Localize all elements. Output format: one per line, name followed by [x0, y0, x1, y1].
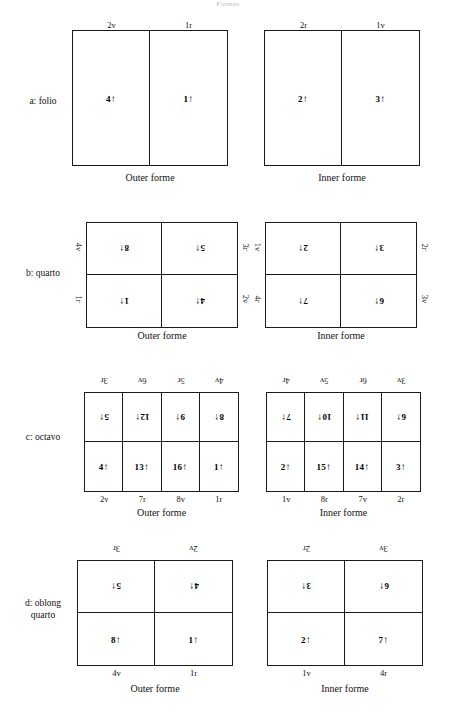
cell-oblong-quarto-outer-3: 1↑	[155, 613, 232, 665]
page-number-6: 6↑	[374, 296, 384, 307]
top-label-oblong-quarto-inner-1: 3v	[345, 544, 422, 554]
top-label-octavo-inner-0: 4r	[267, 376, 305, 386]
row-label-line1: c: octavo	[8, 432, 78, 444]
top-label-oblong-quarto-inner-0: 2r	[268, 544, 345, 554]
page-number-8: 8↑	[111, 634, 121, 645]
page-number-2: 2↑	[298, 243, 308, 254]
row-label-line1: d: oblong	[8, 598, 78, 610]
cell-quarto-outer-2: 1↑	[87, 275, 162, 327]
orientation-arrow-icon: ↑	[301, 581, 306, 592]
bottom-label-octavo-outer-2: 8v	[162, 494, 200, 504]
bottom-label-octavo-outer-0: 2v	[85, 494, 123, 504]
page-number-4: 4↑	[195, 296, 205, 307]
orientation-arrow-icon: ↑	[379, 581, 384, 592]
orientation-arrow-icon: ↑	[219, 461, 224, 472]
orientation-arrow-icon: ↑	[195, 296, 200, 307]
left-label-quarto-outer-1: 1r	[74, 288, 84, 310]
orientation-arrow-icon: ↑	[298, 243, 303, 254]
orientation-arrow-icon: ↑	[111, 581, 116, 592]
cell-folio-inner-0: 2↑	[265, 31, 342, 165]
top-label-folio-outer-1: 1r	[150, 20, 227, 30]
top-label-octavo-outer-2: 5r	[162, 376, 200, 386]
page-number-12: 12↑	[135, 412, 150, 423]
orientation-arrow-icon: ↑	[193, 634, 198, 645]
orientation-arrow-icon: ↑	[383, 634, 388, 645]
orientation-arrow-icon: ↑	[396, 412, 401, 423]
caption-inner-quarto: Inner forme	[265, 330, 417, 341]
cell-quarto-inner-1: 3↑	[341, 223, 416, 275]
page-number-5: 5↑	[111, 581, 121, 592]
cell-octavo-outer-7: 1↑	[200, 442, 238, 491]
forme-outer-oblong-quarto: 5↑4↑8↑1↑	[77, 560, 233, 666]
top-label-octavo-inner-2: 6r	[344, 376, 382, 386]
page-number-5: 5↑	[195, 243, 205, 254]
page-number-4: 4↑	[99, 461, 109, 472]
orientation-arrow-icon: ↑	[303, 93, 308, 104]
orientation-arrow-icon: ↑	[326, 461, 331, 472]
right-label-quarto-inner-0: 2r	[420, 236, 430, 258]
bottom-label-octavo-inner-0: 1v	[267, 494, 305, 504]
orientation-arrow-icon: ↑	[99, 412, 104, 423]
orientation-arrow-icon: ↑	[285, 461, 290, 472]
cell-quarto-outer-1: 5↑	[162, 223, 237, 275]
page-number-1: 1↑	[119, 296, 129, 307]
bottom-label-oblong-quarto-inner-1: 4r	[345, 668, 422, 678]
orientation-arrow-icon: ↑	[103, 461, 108, 472]
orientation-arrow-icon: ↑	[298, 296, 303, 307]
page-number-3: 3↑	[376, 93, 386, 104]
page-number-2: 2↑	[281, 461, 291, 472]
caption-inner-folio: Inner forme	[264, 172, 420, 183]
bottom-label-octavo-inner-3: 2r	[382, 494, 420, 504]
top-label-folio-inner-0: 2r	[265, 20, 342, 30]
cell-octavo-inner-3: 6↑	[382, 393, 420, 442]
cell-oblong-quarto-inner-1: 6↑	[345, 561, 422, 613]
page-number-16: 16↑	[173, 461, 188, 472]
page-number-13: 13↑	[135, 461, 150, 472]
top-label-folio-outer-0: 2v	[73, 20, 150, 30]
cell-quarto-inner-3: 6↑	[341, 275, 416, 327]
right-label-quarto-outer-0: 3r	[241, 236, 251, 258]
page-number-14: 14↑	[355, 461, 370, 472]
caption-outer-folio: Outer forme	[72, 172, 228, 183]
orientation-arrow-icon: ↑	[195, 243, 200, 254]
top-label-folio-inner-1: 1v	[342, 20, 419, 30]
cell-oblong-quarto-outer-1: 4↑	[155, 561, 232, 613]
forme-inner-folio: 2↑3↑	[264, 30, 420, 166]
bottom-label-octavo-inner-1: 8r	[305, 494, 343, 504]
row-label-folio: a: folio	[8, 96, 78, 108]
cell-octavo-inner-7: 3↑	[382, 442, 420, 491]
forme-outer-folio: 4↑1↑	[72, 30, 228, 166]
row-label-quarto: b: quarto	[8, 268, 78, 280]
top-label-octavo-inner-1: 5v	[305, 376, 343, 386]
cell-octavo-outer-4: 4↑	[85, 442, 123, 491]
bottom-label-oblong-quarto-outer-0: 4v	[78, 668, 155, 678]
cell-oblong-quarto-outer-2: 8↑	[78, 613, 155, 665]
orientation-arrow-icon: ↑	[119, 296, 124, 307]
orientation-arrow-icon: ↑	[188, 93, 193, 104]
orientation-arrow-icon: ↑	[317, 412, 322, 423]
caption-inner-octavo: Inner forme	[266, 507, 421, 518]
page-number-2: 2↑	[298, 93, 308, 104]
bottom-label-oblong-quarto-inner-0: 1v	[268, 668, 345, 678]
forme-inner-octavo: 7↑10↑11↑6↑2↑15↑14↑3↑	[266, 392, 421, 492]
left-label-quarto-outer-0: 4v	[74, 236, 84, 258]
orientation-arrow-icon: ↑	[116, 634, 121, 645]
forme-outer-octavo: 5↑12↑9↑8↑4↑13↑16↑1↑	[84, 392, 239, 492]
caption-inner-oblong-quarto: Inner forme	[267, 683, 423, 694]
row-label-oblong-quarto: d: oblongquarto	[8, 598, 78, 621]
cell-octavo-inner-2: 11↑	[344, 393, 382, 442]
orientation-arrow-icon: ↑	[364, 461, 369, 472]
page-number-5: 5↑	[99, 412, 109, 423]
page-number-2: 2↑	[301, 634, 311, 645]
cell-octavo-inner-6: 14↑	[344, 442, 382, 491]
caption-outer-octavo: Outer forme	[84, 507, 239, 518]
page-number-10: 10↑	[317, 412, 332, 423]
top-label-octavo-inner-3: 3v	[382, 376, 420, 386]
orientation-arrow-icon: ↑	[189, 581, 194, 592]
cell-oblong-quarto-outer-0: 5↑	[78, 561, 155, 613]
orientation-arrow-icon: ↑	[182, 461, 187, 472]
page-number-7: 7↑	[281, 412, 291, 423]
page-number-4: 4↑	[106, 93, 116, 104]
cell-quarto-outer-0: 8↑	[87, 223, 162, 275]
page-number-11: 11↑	[355, 412, 369, 423]
